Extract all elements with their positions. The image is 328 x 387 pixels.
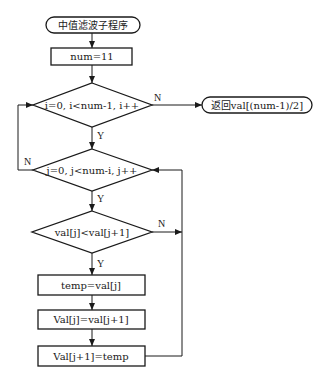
compare-decision: val[j]<val[j+1] [32,211,152,253]
outer-no-label: N [154,92,161,103]
swap-step-3: Val[j+1]=temp [38,346,145,366]
init-label: num=11 [70,51,113,62]
inner-no-label: N [24,156,31,167]
swap-step-2: Val[j]=val[j+1] [38,310,145,329]
inner-loop-decision: j=0, j<num-i, j++ [33,149,152,191]
swap-step-1: temp=val[j] [38,275,145,295]
flowchart: 中值滤波子程序 num=11 i=0, i<num-1, i++ N 返回val… [0,0,328,387]
inner-yes-label: Y [97,193,104,204]
step3-label: Val[j+1]=temp [52,351,128,362]
outer-loop-decision: i=0, i<num-1, i++ [33,83,152,127]
compare-no-label: N [158,218,165,229]
step1-label: temp=val[j] [61,280,121,291]
return-label: 返回val[(num-1)/2] [211,100,303,111]
outer-yes-label: Y [97,130,104,141]
inner-loop-label: j=0, j<num-i, j++ [46,165,138,176]
step2-label: Val[j]=val[j+1] [52,314,128,325]
return-terminal: 返回val[(num-1)/2] [202,97,312,113]
start-label: 中值滤波子程序 [58,19,128,31]
compare-yes-label: Y [97,258,104,269]
outer-loop-label: i=0, i<num-1, i++ [45,100,139,111]
start-terminal: 中值滤波子程序 [46,17,140,33]
compare-label: val[j]<val[j+1] [54,227,130,238]
init-process: num=11 [51,48,132,65]
arrow-step3-inner-loop [145,170,182,356]
